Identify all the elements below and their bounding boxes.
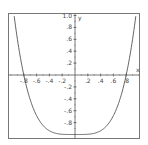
- function-plot: -.8-.6-.4-.2.2.4.6.81.0.8.6.4.2-.2-.4-.6…: [0, 0, 148, 145]
- y-tick-label: .2: [66, 59, 72, 66]
- x-tick-label: -.4: [45, 77, 53, 84]
- x-tick-label: -.8: [20, 77, 28, 84]
- x-tick-label: .6: [111, 77, 117, 84]
- y-tick-label: .4: [66, 47, 72, 54]
- x-tick-label: .4: [98, 77, 104, 84]
- y-tick-label: -.8: [64, 119, 72, 126]
- y-tick-label: -.2: [64, 83, 72, 90]
- y-tick-label: .6: [66, 35, 72, 42]
- y-axis-label: y: [78, 14, 82, 22]
- y-tick-label: .8: [66, 23, 72, 30]
- x-tick-label: -.6: [33, 77, 41, 84]
- y-tick-label: -.6: [64, 107, 72, 114]
- y-tick-label: 1.0: [62, 12, 72, 19]
- x-tick-label: .2: [85, 77, 91, 84]
- x-axis-label: x: [136, 66, 140, 73]
- y-tick-label: -.4: [64, 95, 72, 102]
